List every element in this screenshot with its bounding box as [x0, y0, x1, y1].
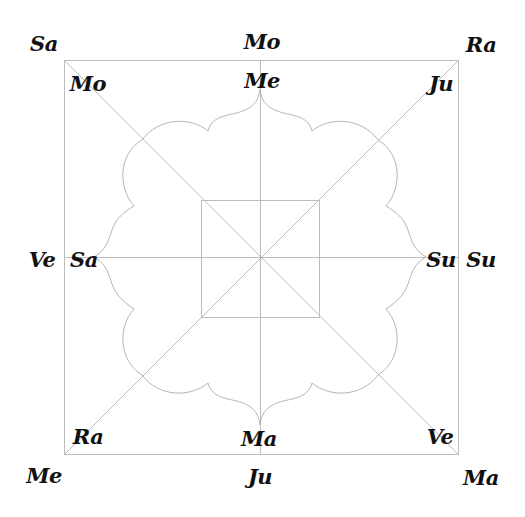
outer-label-bottom: Ju: [248, 466, 272, 487]
inner-label-top-right: Ju: [429, 73, 453, 94]
inner-label-bottom-left: Ra: [73, 426, 104, 447]
outer-label-top-left: Sa: [30, 33, 58, 54]
inner-label-left: Sa: [70, 249, 98, 270]
outer-label-bottom-left: Me: [26, 465, 62, 486]
outer-label-bottom-right: Ma: [463, 467, 499, 488]
astrology-chart: Sa Mo Ra Ve Su Me Ju Ma Mo Me Ju Sa Su R…: [0, 0, 525, 517]
inner-label-bottom: Ma: [241, 428, 277, 449]
inner-label-top-left: Mo: [70, 73, 106, 94]
center-dot: [260, 257, 262, 259]
inner-label-bottom-right: Ve: [427, 426, 454, 447]
outer-label-left: Ve: [29, 249, 56, 270]
outer-label-top-right: Ra: [466, 34, 497, 55]
outer-label-right: Su: [466, 249, 495, 270]
outer-label-top: Mo: [244, 31, 280, 52]
inner-label-right: Su: [426, 249, 455, 270]
inner-label-top: Me: [244, 70, 280, 91]
